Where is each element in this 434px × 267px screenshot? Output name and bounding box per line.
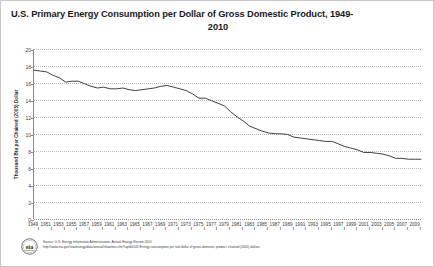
y-axis-title: Thousand Btu per Chained (2005) Dollar [12, 49, 22, 219]
x-tick-mark-1963 [127, 227, 128, 230]
x-tick-mark-1973 [191, 227, 192, 230]
x-tick-label-1969: 1969 [155, 222, 165, 227]
eia-logo-icon: eia [21, 238, 38, 255]
x-tick-mark-1955 [76, 227, 77, 230]
x-tick-mark-1949 [38, 227, 39, 230]
x-tick-mark-1991 [305, 227, 306, 230]
chart-title: U.S. Primary Energy Consumption per Doll… [9, 8, 427, 34]
x-axis-tick-labels: 1949195119531955195719591961196319651967… [33, 222, 421, 232]
x-tick-label-2003: 2003 [371, 222, 381, 227]
x-tick-label-1955: 1955 [66, 222, 76, 227]
chart-figure: U.S. Primary Energy Consumption per Doll… [0, 0, 434, 267]
x-tick-mark-1983 [254, 227, 255, 230]
x-tick-mark-1957 [89, 227, 90, 230]
x-tick-label-1999: 1999 [346, 222, 356, 227]
x-tick-mark-1971 [178, 227, 179, 230]
chart-footer: eia Source: U.S. Energy Information Admi… [21, 238, 421, 255]
x-tick-mark-1993 [318, 227, 319, 230]
x-tick-label-1991: 1991 [295, 222, 305, 227]
series-line-energy-intensity [34, 70, 421, 159]
x-tick-mark-2001 [369, 227, 370, 230]
x-tick-label-1963: 1963 [117, 222, 127, 227]
x-tick-label-1975: 1975 [193, 222, 203, 227]
x-tick-mark-1989 [293, 227, 294, 230]
x-tick-mark-1961 [114, 227, 115, 230]
x-tick-mark-1969 [165, 227, 166, 230]
x-tick-label-2001: 2001 [359, 222, 369, 227]
x-tick-label-1995: 1995 [320, 222, 330, 227]
x-tick-mark-1979 [229, 227, 230, 230]
x-tick-mark-1959 [102, 227, 103, 230]
x-tick-label-1981: 1981 [231, 222, 241, 227]
chart-title-line-1: U.S. Primary Energy Consumption per Doll… [9, 8, 427, 21]
svg-text:eia: eia [26, 243, 35, 250]
x-tick-label-1985: 1985 [257, 222, 267, 227]
x-tick-mark-1999 [356, 227, 357, 230]
y-tick-mark-0 [31, 220, 34, 221]
x-tick-label-1973: 1973 [181, 222, 191, 227]
y-axis-title-label: Thousand Btu per Chained (2005) Dollar [15, 89, 20, 178]
chart-title-line-2: 2010 [9, 21, 427, 34]
x-tick-label-1977: 1977 [206, 222, 216, 227]
x-tick-mark-1975 [203, 227, 204, 230]
x-tick-label-1971: 1971 [168, 222, 178, 227]
x-tick-mark-2007 [407, 227, 408, 230]
x-tick-mark-1981 [242, 227, 243, 230]
plot-frame: 02468101214161820 [33, 49, 421, 219]
x-tick-label-2009: 2009 [410, 222, 420, 227]
x-tick-mark-1953 [64, 227, 65, 230]
plot-area: 02468101214161820 [33, 49, 421, 219]
x-tick-label-2005: 2005 [384, 222, 394, 227]
x-tick-mark-1995 [331, 227, 332, 230]
x-tick-label-1965: 1965 [130, 222, 140, 227]
x-tick-label-1951: 1951 [41, 222, 51, 227]
x-tick-label-1959: 1959 [91, 222, 101, 227]
footer-source-text: Source: U.S. Energy Information Administ… [43, 238, 261, 249]
x-tick-label-1979: 1979 [219, 222, 229, 227]
x-tick-mark-1951 [51, 227, 52, 230]
x-tick-label-1957: 1957 [79, 222, 89, 227]
x-tick-mark-1997 [343, 227, 344, 230]
x-tick-mark-1985 [267, 227, 268, 230]
x-tick-label-1961: 1961 [104, 222, 114, 227]
gridline-y-0: 0 [34, 219, 421, 220]
footer-source-line-2: http://www.eia.gov/totalenergy/data/annu… [43, 245, 261, 250]
x-tick-label-1997: 1997 [333, 222, 343, 227]
x-tick-label-2007: 2007 [397, 222, 407, 227]
x-tick-label-1967: 1967 [142, 222, 152, 227]
x-tick-label-1953: 1953 [53, 222, 63, 227]
x-tick-mark-2009 [420, 227, 421, 230]
x-tick-mark-1987 [280, 227, 281, 230]
x-tick-mark-2005 [394, 227, 395, 230]
x-tick-mark-1967 [153, 227, 154, 230]
x-tick-label-1949: 1949 [28, 222, 38, 227]
x-tick-label-1987: 1987 [270, 222, 280, 227]
x-tick-mark-1977 [216, 227, 217, 230]
x-tick-mark-2003 [382, 227, 383, 230]
x-tick-label-1983: 1983 [244, 222, 254, 227]
x-tick-mark-1965 [140, 227, 141, 230]
data-series-svg [34, 49, 421, 219]
x-tick-label-1989: 1989 [282, 222, 292, 227]
x-tick-label-1993: 1993 [308, 222, 318, 227]
